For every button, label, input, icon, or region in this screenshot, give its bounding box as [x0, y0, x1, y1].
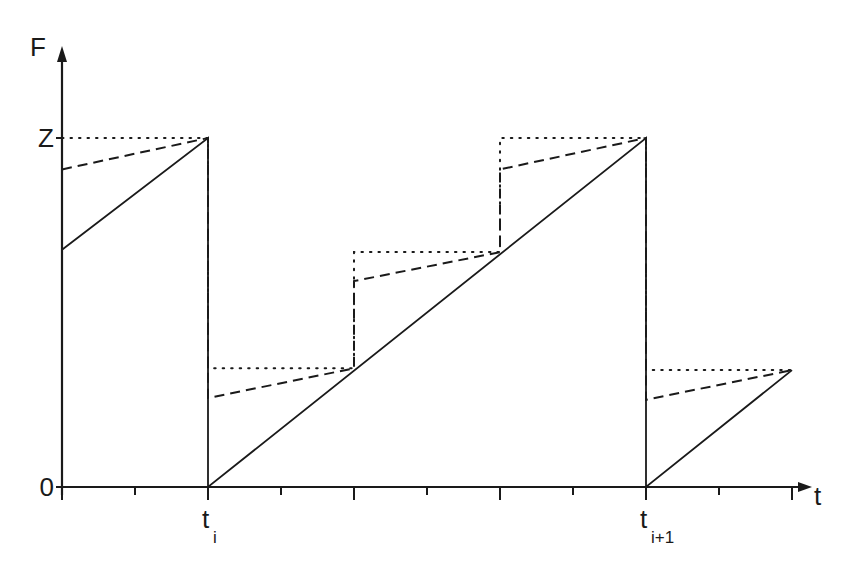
axes-layer — [56, 46, 812, 500]
x-tick-label: ti — [202, 504, 217, 547]
x-axis-arrow-icon — [798, 482, 812, 492]
series-dotted-line — [62, 138, 792, 370]
y-tick-labels: 0Z — [38, 123, 54, 502]
x-axis-label: t — [814, 481, 822, 511]
x-ticks — [62, 487, 792, 500]
x-tick-label-base: t — [202, 504, 210, 534]
y-axis-arrow-icon — [57, 46, 67, 62]
x-tick-labels: titi+1 — [202, 504, 674, 547]
series-solid-line — [62, 138, 792, 487]
y-axis-label: F — [30, 32, 46, 62]
sawtooth-diagram: F t 0Z titi+1 — [0, 0, 849, 572]
series-dashed-line — [62, 138, 792, 400]
x-tick-label-subscript: i+1 — [651, 528, 674, 547]
x-tick-label-base: t — [640, 504, 648, 534]
y-tick-label: Z — [38, 123, 54, 153]
series-layer — [62, 138, 792, 487]
x-tick-label: ti+1 — [640, 504, 674, 547]
x-tick-label-subscript: i — [213, 528, 217, 547]
y-tick-label: 0 — [40, 472, 54, 502]
